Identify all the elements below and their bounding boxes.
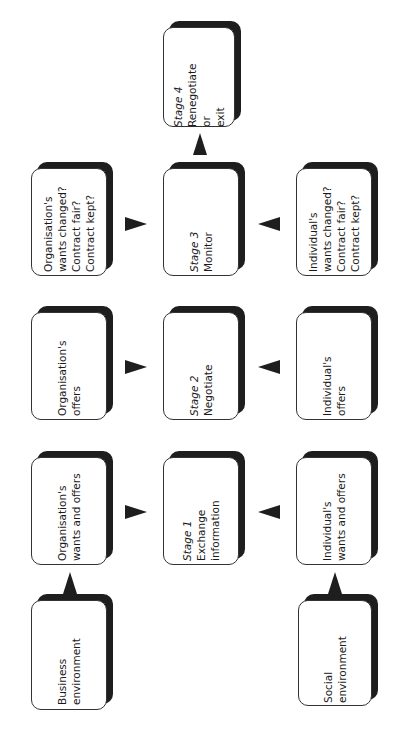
box-line: Organisation's	[41, 172, 55, 272]
box-line: Organisation's	[55, 461, 69, 561]
box-line: Contract fair?	[334, 172, 348, 272]
box-line: offers	[69, 316, 83, 416]
box-line: Contract kept?	[83, 172, 97, 272]
box-line: Contract fair?	[69, 172, 83, 272]
box-face: Stage 2 Negotiate	[163, 312, 239, 420]
box-face: Organisation's wants and offers	[31, 457, 107, 565]
stage1-box: Stage 1 Exchange information	[163, 457, 239, 565]
box-line: wants and offers	[334, 461, 348, 561]
org-wants-offers-box: Organisation's wants and offers	[31, 457, 107, 565]
box-text: Individual's wants and offers	[320, 461, 348, 561]
box-text: Stage 3 Monitor	[187, 172, 215, 272]
org-offers-box: Organisation's offers	[31, 312, 107, 420]
box-line: Renegotiate	[185, 27, 199, 127]
box-face: Organisation's offers	[31, 312, 107, 420]
arrow-right-icon	[125, 360, 147, 374]
box-line: exit	[213, 27, 227, 127]
box-face: Individual's wants changed? Contract fai…	[296, 168, 372, 276]
arrow-up-icon	[328, 572, 342, 594]
box-text: Individual's offers	[320, 316, 348, 416]
box-face: Stage 4 Renegotiate or exit	[163, 27, 235, 127]
box-text: Social environment	[321, 603, 349, 703]
social-environment-box: Social environment	[298, 600, 372, 706]
box-line: Negotiate	[201, 316, 215, 416]
stage2-box: Stage 2 Negotiate	[163, 312, 239, 420]
box-text: Organisation's wants and offers	[55, 461, 83, 561]
box-face: Individual's offers	[296, 312, 372, 420]
business-environment-box: Business environment	[31, 600, 107, 710]
box-line: Contract kept?	[348, 172, 362, 272]
stage4-box: Stage 4 Renegotiate or exit	[163, 27, 235, 127]
box-text: Stage 1 Exchange information	[180, 461, 222, 561]
box-line: Social	[321, 603, 335, 703]
arrow-left-icon	[258, 505, 280, 519]
box-line: offers	[334, 316, 348, 416]
stage-label: Stage 1	[180, 461, 194, 561]
box-line: wants changed?	[320, 172, 334, 272]
box-line: Individual's	[320, 316, 334, 416]
box-line: Monitor	[201, 172, 215, 272]
arrow-left-icon	[258, 360, 280, 374]
box-text: Organisation's wants changed? Contract f…	[41, 172, 97, 272]
org-changed-box: Organisation's wants changed? Contract f…	[31, 168, 107, 276]
arrow-up-icon	[193, 133, 207, 155]
box-line: environment	[69, 605, 83, 705]
box-line: wants changed?	[55, 172, 69, 272]
box-line: Exchange	[194, 461, 208, 561]
box-line: Organisation's	[55, 316, 69, 416]
stage-label: Stage 4	[171, 27, 185, 127]
box-face: Social environment	[298, 600, 372, 706]
arrow-right-icon	[125, 217, 147, 231]
arrow-left-icon	[258, 217, 280, 231]
box-face: Stage 1 Exchange information	[163, 457, 239, 565]
box-line: wants and offers	[69, 461, 83, 561]
stage-label: Stage 2	[187, 316, 201, 416]
box-face: Business environment	[31, 600, 107, 710]
box-line: Individual's	[306, 172, 320, 272]
arrow-right-icon	[125, 505, 147, 519]
box-text: Business environment	[55, 605, 83, 705]
ind-wants-offers-box: Individual's wants and offers	[296, 457, 372, 565]
box-line: information	[208, 461, 222, 561]
box-face: Organisation's wants changed? Contract f…	[31, 168, 107, 276]
ind-offers-box: Individual's offers	[296, 312, 372, 420]
arrow-up-icon	[63, 572, 77, 594]
ind-changed-box: Individual's wants changed? Contract fai…	[296, 168, 372, 276]
box-line: or	[199, 27, 213, 127]
box-text: Stage 4 Renegotiate or exit	[171, 27, 227, 127]
box-text: Organisation's offers	[55, 316, 83, 416]
box-line: Individual's	[320, 461, 334, 561]
box-text: Stage 2 Negotiate	[187, 316, 215, 416]
box-text: Individual's wants changed? Contract fai…	[306, 172, 362, 272]
box-face: Individual's wants and offers	[296, 457, 372, 565]
stage3-box: Stage 3 Monitor	[163, 168, 239, 276]
box-line: Business	[55, 605, 69, 705]
box-face: Stage 3 Monitor	[163, 168, 239, 276]
stage-label: Stage 3	[187, 172, 201, 272]
box-line: environment	[335, 603, 349, 703]
